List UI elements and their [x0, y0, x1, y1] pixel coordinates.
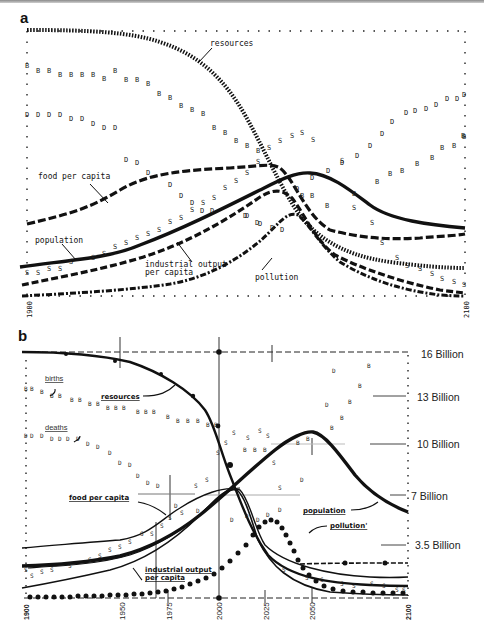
svg-text:D: D: [80, 115, 84, 123]
panel-b-label-deaths: deaths: [45, 423, 68, 432]
svg-text:B: B: [152, 408, 156, 415]
svg-text:S: S: [234, 177, 238, 185]
svg-text:S: S: [30, 572, 34, 579]
svg-text:B: B: [201, 110, 205, 118]
svg-text:S: S: [40, 568, 44, 575]
svg-text:S: S: [370, 219, 374, 227]
svg-text:S: S: [282, 566, 286, 573]
svg-text:S: S: [160, 522, 164, 529]
panel-b-x-tick-2100: 2100: [405, 604, 412, 620]
panel-b-label-food: food per capita: [69, 494, 129, 502]
svg-text:D: D: [230, 516, 234, 523]
svg-text:S: S: [245, 169, 249, 177]
svg-text:S: S: [278, 484, 282, 491]
svg-text:D: D: [404, 109, 408, 117]
svg-text:S: S: [246, 434, 250, 441]
svg-text:S: S: [157, 226, 161, 234]
svg-text:D: D: [86, 440, 90, 447]
svg-text:B: B: [430, 154, 434, 162]
svg-text:S: S: [168, 514, 172, 521]
panel-b-flat-curve: [300, 563, 408, 564]
svg-text:S: S: [266, 432, 270, 439]
svg-text:B: B: [122, 404, 126, 411]
svg-text:D: D: [295, 185, 299, 193]
svg-text:D: D: [66, 435, 70, 442]
panel-b-x-tick-1975: 1975: [165, 602, 174, 620]
svg-text:B: B: [69, 71, 73, 79]
svg-text:D: D: [455, 95, 459, 103]
svg-text:D: D: [200, 207, 204, 215]
svg-text:S: S: [370, 580, 374, 587]
svg-text:D: D: [413, 107, 417, 115]
svg-text:S: S: [402, 586, 406, 593]
svg-text:B: B: [78, 396, 82, 403]
panel-a-label-resources: resources: [210, 39, 254, 48]
svg-text:S: S: [320, 576, 324, 583]
svg-text:S: S: [440, 275, 444, 283]
svg-text:D: D: [390, 118, 394, 126]
svg-text:B: B: [88, 400, 92, 407]
panel-a-label-food: food per capita: [38, 172, 110, 181]
svg-text:B: B: [310, 192, 314, 200]
svg-text:S: S: [25, 269, 29, 277]
svg-text:D: D: [380, 130, 384, 138]
panel-b-label-industrial-1: industrial output: [145, 566, 212, 574]
svg-text:D: D: [196, 507, 200, 514]
svg-text:B: B: [256, 147, 260, 155]
svg-text:D: D: [36, 111, 40, 119]
svg-text:S: S: [258, 427, 262, 434]
svg-text:B: B: [168, 94, 172, 102]
svg-text:D: D: [278, 506, 282, 513]
svg-text:S: S: [118, 543, 122, 550]
svg-text:D: D: [424, 105, 428, 113]
panel-b-x-tick-2025: 2025: [262, 602, 271, 620]
svg-text:S: S: [88, 556, 92, 563]
svg-text:B: B: [340, 414, 344, 421]
panel-b-y-tick-3-5b: 3.5 Billion: [415, 539, 461, 551]
svg-text:S: S: [256, 158, 260, 166]
svg-text:B: B: [352, 190, 356, 198]
panel-b-services-markers: SSSSSSSSSSSSSSSSSSSSSSSSS SSSSSSSSS: [24, 427, 406, 593]
svg-text:S: S: [272, 459, 276, 466]
svg-text:D: D: [96, 443, 100, 450]
svg-text:B: B: [348, 398, 352, 405]
svg-text:B: B: [263, 446, 267, 453]
svg-text:B: B: [243, 446, 247, 453]
svg-text:S: S: [430, 270, 434, 278]
svg-text:D: D: [325, 401, 329, 408]
panel-b-label-births: births: [45, 374, 64, 383]
svg-text:D: D: [146, 479, 150, 486]
svg-text:S: S: [69, 258, 73, 266]
svg-text:B: B: [245, 142, 249, 150]
panel-b-x-tick-2050: 2050: [308, 602, 317, 620]
svg-text:B: B: [114, 404, 118, 411]
svg-text:D: D: [156, 482, 160, 489]
panel-b-industrial-curve: [22, 490, 408, 595]
panel-a-label-industrial-2: per capita: [145, 268, 193, 277]
svg-text:S: S: [47, 265, 51, 273]
svg-text:S: S: [98, 552, 102, 559]
svg-text:B: B: [306, 435, 310, 442]
panel-b-x-tick-1950: 1950: [118, 602, 127, 620]
svg-text:S: S: [146, 230, 150, 238]
svg-text:S: S: [278, 137, 282, 145]
svg-text:B: B: [166, 413, 170, 420]
svg-text:B: B: [136, 408, 140, 415]
svg-text:S: S: [405, 262, 409, 270]
svg-text:D: D: [124, 156, 128, 164]
svg-text:S: S: [395, 586, 399, 593]
svg-text:D: D: [47, 111, 51, 119]
svg-text:D: D: [58, 435, 62, 442]
svg-text:B: B: [135, 76, 139, 84]
svg-text:B: B: [91, 71, 95, 79]
svg-text:S: S: [91, 254, 95, 262]
svg-text:B: B: [223, 129, 227, 137]
panel-b-label-population: population: [303, 507, 345, 515]
svg-text:B: B: [388, 170, 392, 178]
svg-text:B: B: [102, 75, 106, 83]
panel-b-vertical-guides: [120, 337, 312, 603]
svg-text:B: B: [157, 90, 161, 98]
svg-text:B: B: [47, 67, 51, 75]
svg-text:S: S: [180, 509, 184, 516]
panel-a-births-markers: BBBBBBBBBBBBBBBBBBBBBB BBBBBBBBBBBBB: [25, 62, 466, 210]
